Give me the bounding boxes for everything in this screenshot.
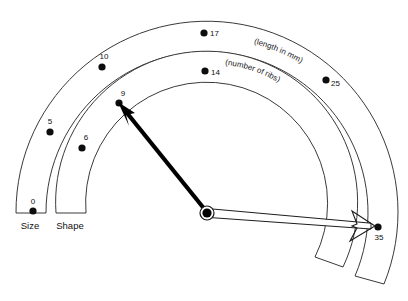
shape-tick-dot-6 — [78, 144, 85, 151]
size-tick-dot-0 — [29, 207, 36, 214]
pivot-core — [202, 208, 211, 217]
shape-tick-label-9: 9 — [121, 89, 126, 98]
size-tick-dot-17 — [200, 29, 207, 36]
gauge-canvas: 0 5 10 17 25 35 6 9 14 (length in mm) — [0, 0, 408, 301]
size-tick-dot-10 — [98, 63, 105, 70]
size-tick-label-5: 5 — [48, 117, 53, 126]
size-tick-label-35: 35 — [375, 233, 384, 242]
size-tick-label-17: 17 — [210, 29, 219, 38]
shape-tick-label-6: 6 — [84, 133, 89, 142]
gauge-diagram: 0 5 10 17 25 35 6 9 14 (length in mm) — [0, 0, 408, 301]
shape-tick-dot-14 — [201, 67, 208, 74]
size-tick-label-25: 25 — [331, 79, 340, 88]
size-tick-dot-35 — [374, 223, 381, 230]
size-axis-name: Size — [21, 220, 39, 231]
size-tick-label-0: 0 — [31, 197, 36, 206]
size-tick-dot-5 — [46, 128, 53, 135]
size-tick-label-10: 10 — [100, 52, 109, 61]
shape-axis-name: Shape — [56, 220, 83, 231]
shape-needle — [118, 102, 206, 211]
shape-tick-label-14: 14 — [211, 68, 220, 77]
shape-needle-shaft — [127, 113, 206, 211]
size-tick-dot-25 — [322, 76, 329, 83]
